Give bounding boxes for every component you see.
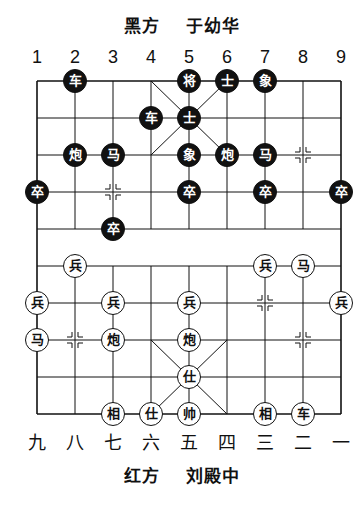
file-numeral: 二 xyxy=(291,428,315,454)
red-piece: 帅 xyxy=(177,402,201,426)
black-piece: 象 xyxy=(253,69,277,93)
red-piece: 相 xyxy=(253,402,277,426)
red-piece: 炮 xyxy=(101,328,125,352)
black-piece: 卒 xyxy=(25,180,49,204)
black-piece: 车 xyxy=(63,69,87,93)
file-numeral: 九 xyxy=(25,428,49,454)
red-piece: 马 xyxy=(25,328,49,352)
file-numeral: 七 xyxy=(101,428,125,454)
black-piece: 炮 xyxy=(63,143,87,167)
red-side-label: 红方 xyxy=(124,466,160,486)
red-piece: 兵 xyxy=(329,291,353,315)
file-numeral: 三 xyxy=(253,428,277,454)
file-numeral: 六 xyxy=(139,428,163,454)
red-piece: 马 xyxy=(291,254,315,278)
black-piece: 象 xyxy=(177,143,201,167)
red-piece: 兵 xyxy=(253,254,277,278)
file-numeral: 八 xyxy=(63,428,87,454)
bottom-file-numbers: 九八七六五四三二一 xyxy=(0,428,363,452)
black-piece: 车 xyxy=(139,106,163,130)
black-piece: 士 xyxy=(177,106,201,130)
file-numeral: 五 xyxy=(177,428,201,454)
black-piece: 卒 xyxy=(101,217,125,241)
red-piece: 仕 xyxy=(177,365,201,389)
file-numeral: 四 xyxy=(215,428,239,454)
black-piece: 卒 xyxy=(177,180,201,204)
red-piece: 仕 xyxy=(139,402,163,426)
black-piece: 将 xyxy=(177,69,201,93)
black-piece: 马 xyxy=(253,143,277,167)
red-piece: 车 xyxy=(291,402,315,426)
black-piece: 卒 xyxy=(253,180,277,204)
red-piece: 兵 xyxy=(25,291,49,315)
red-piece: 兵 xyxy=(63,254,87,278)
red-piece: 相 xyxy=(101,402,125,426)
black-piece: 炮 xyxy=(215,143,239,167)
black-piece: 士 xyxy=(215,69,239,93)
red-piece: 炮 xyxy=(177,328,201,352)
black-piece: 马 xyxy=(101,143,125,167)
red-piece: 兵 xyxy=(177,291,201,315)
red-piece: 兵 xyxy=(101,291,125,315)
red-side-title: 红方刘殿中 xyxy=(0,462,363,487)
file-numeral: 一 xyxy=(329,428,353,454)
red-player-name: 刘殿中 xyxy=(186,466,240,486)
black-piece: 卒 xyxy=(329,180,353,204)
